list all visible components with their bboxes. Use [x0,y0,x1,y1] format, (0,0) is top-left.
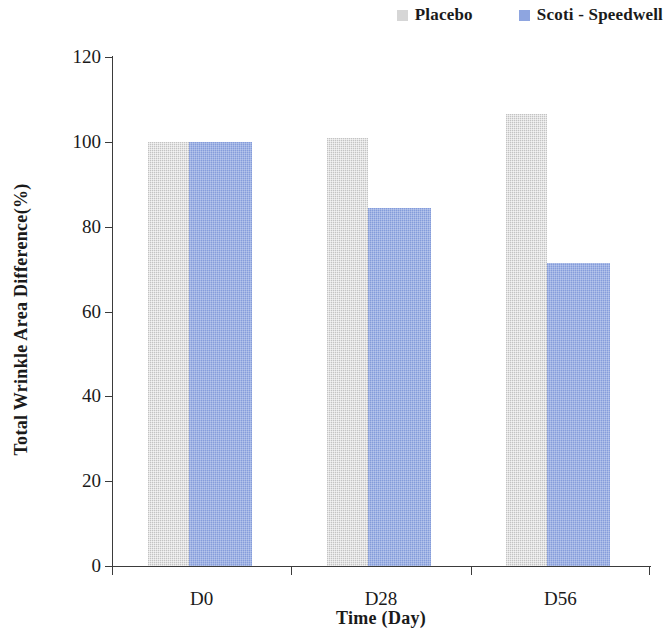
plot-area: 020406080100120 D0D28D56 [112,57,650,566]
x-axis-tick [291,566,292,575]
x-axis-tick [112,566,113,575]
y-axis-tick [105,312,112,313]
x-axis-title: Time (Day) [112,608,650,629]
y-axis-tick [105,481,112,482]
legend-item-placebo: Placebo [397,5,473,25]
y-axis-title: Total Wrinkle Area Difference(%) [4,0,38,638]
legend-label-placebo: Placebo [415,5,473,25]
square-swatch-icon [519,10,530,21]
y-axis-tick [105,142,112,143]
y-axis-tick [105,227,112,228]
y-axis-tick-label: 40 [82,385,101,407]
bar-d28-scoti-speedwell [368,208,431,566]
bar-d56-scoti-speedwell [547,263,610,566]
square-swatch-icon [397,10,408,21]
chart-figure: Placebo Scoti - Speedwell 02040608010012… [0,0,671,638]
y-axis-line [112,56,113,567]
bar-d56-placebo [506,114,547,566]
y-axis-tick [105,396,112,397]
y-axis-tick-label: 100 [73,131,102,153]
y-axis-tick-label: 20 [82,470,101,492]
bar-d28-placebo [327,138,368,566]
chart-legend: Placebo Scoti - Speedwell [0,2,671,28]
x-axis-category-label: D0 [190,588,213,610]
y-axis-tick-label: 80 [82,216,101,238]
x-axis-category-label: D28 [365,588,398,610]
y-axis-tick-label: 60 [82,301,101,323]
y-axis-tick-label: 120 [73,46,102,68]
bar-d0-placebo [148,142,189,566]
y-axis-tick-label: 0 [92,555,102,577]
legend-label-scoti-speedwell: Scoti - Speedwell [537,5,663,25]
legend-item-scoti-speedwell: Scoti - Speedwell [519,5,663,25]
x-axis-tick [649,566,650,575]
x-axis-line [112,566,651,567]
x-axis-category-label: D56 [544,588,577,610]
y-axis-title-text: Total Wrinkle Area Difference(%) [11,183,32,455]
y-axis-tick [105,566,112,567]
bar-d0-scoti-speedwell [189,142,252,566]
y-axis-tick [105,57,112,58]
x-axis-tick [471,566,472,575]
